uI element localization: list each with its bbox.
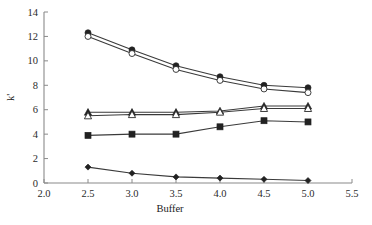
series-line-series-5 bbox=[88, 121, 308, 136]
series-line-series-2 bbox=[88, 36, 308, 92]
data-point-series-2 bbox=[217, 77, 223, 83]
series-line-series-3 bbox=[88, 106, 308, 112]
data-point-series-6 bbox=[173, 174, 179, 180]
x-tick-label: 5.0 bbox=[301, 188, 314, 199]
x-tick-label: 4.5 bbox=[257, 188, 270, 199]
data-point-series-2 bbox=[261, 86, 267, 92]
x-axis-title: Buffer bbox=[156, 203, 184, 214]
chart-figure: 2.02.53.03.54.04.55.05.514121086420Buffe… bbox=[0, 0, 372, 225]
data-point-series-5 bbox=[305, 119, 311, 125]
data-point-series-6 bbox=[85, 164, 91, 170]
x-tick-label: 4.0 bbox=[213, 188, 226, 199]
y-tick-label: 12 bbox=[28, 31, 39, 42]
x-tick-label: 3.0 bbox=[125, 188, 138, 199]
data-point-series-5 bbox=[261, 118, 267, 124]
data-point-series-2 bbox=[173, 66, 179, 72]
y-tick-label: 6 bbox=[33, 104, 38, 115]
y-tick-label: 14 bbox=[28, 7, 39, 18]
y-tick-label: 2 bbox=[33, 153, 38, 164]
y-tick-label: 4 bbox=[33, 129, 39, 140]
series-line-series-6 bbox=[88, 167, 308, 180]
series-line-series-1 bbox=[88, 33, 308, 88]
y-axis-title: k' bbox=[5, 94, 16, 101]
data-point-series-5 bbox=[85, 132, 91, 138]
y-tick-label: 0 bbox=[33, 178, 38, 189]
data-point-series-5 bbox=[129, 131, 135, 137]
y-tick-label: 10 bbox=[28, 55, 39, 66]
chart-canvas: 2.02.53.03.54.04.55.05.514121086420Buffe… bbox=[0, 0, 372, 225]
x-tick-label: 5.5 bbox=[345, 188, 358, 199]
y-tick-label: 8 bbox=[33, 80, 38, 91]
x-tick-label: 2.0 bbox=[37, 188, 50, 199]
data-point-series-5 bbox=[173, 131, 179, 137]
data-point-series-2 bbox=[129, 51, 135, 57]
data-point-series-6 bbox=[261, 176, 267, 182]
data-point-series-2 bbox=[305, 90, 311, 96]
x-tick-label: 2.5 bbox=[81, 188, 94, 199]
data-point-series-6 bbox=[217, 175, 223, 181]
data-point-series-2 bbox=[85, 33, 91, 39]
data-point-series-5 bbox=[217, 124, 223, 130]
data-point-series-6 bbox=[129, 170, 135, 176]
x-tick-label: 3.5 bbox=[169, 188, 182, 199]
